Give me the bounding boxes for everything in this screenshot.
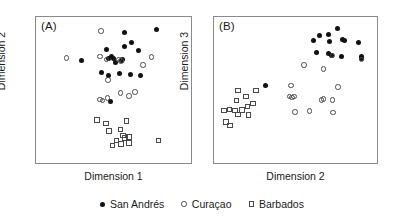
- data-point: [105, 77, 111, 83]
- data-point: [124, 118, 130, 124]
- data-point: [335, 84, 341, 90]
- data-point: [317, 33, 322, 38]
- data-point: [118, 141, 124, 147]
- data-point: [243, 94, 249, 100]
- data-point: [321, 96, 327, 102]
- data-point: [339, 54, 344, 59]
- legend: San Andrés Curaçao Barbados: [0, 198, 404, 210]
- data-point: [359, 57, 365, 63]
- data-point: [245, 104, 251, 110]
- panel-a-xlabel: Dimension 1: [35, 170, 192, 182]
- data-point: [330, 97, 336, 103]
- data-point: [326, 32, 331, 37]
- data-point: [126, 93, 132, 99]
- data-point: [79, 58, 84, 63]
- plot-frame-a: [35, 16, 192, 164]
- data-point: [110, 143, 116, 149]
- data-point: [140, 62, 146, 68]
- data-point: [291, 94, 297, 100]
- data-point: [99, 70, 104, 75]
- legend-entry-san-andres: San Andrés: [100, 198, 164, 210]
- data-point: [227, 107, 233, 113]
- data-point: [132, 89, 138, 95]
- data-point: [301, 62, 307, 68]
- data-point: [321, 66, 327, 72]
- data-point: [129, 40, 134, 45]
- panel-b-ylabel: Dimension 3: [178, 21, 190, 143]
- data-point: [314, 50, 319, 55]
- panel-b-xlabel: Dimension 2: [213, 170, 378, 182]
- plot-frame-b: [213, 16, 378, 164]
- data-point: [330, 110, 336, 116]
- data-point: [118, 90, 124, 96]
- data-point: [246, 112, 252, 118]
- data-point: [117, 71, 122, 76]
- plot-area-a: [36, 17, 191, 163]
- data-point: [234, 98, 240, 104]
- data-point: [235, 112, 241, 118]
- data-point: [156, 138, 162, 144]
- data-point: [311, 38, 316, 43]
- legend-label-curacao: Curaçao: [192, 198, 232, 210]
- data-point: [253, 88, 259, 94]
- data-point: [104, 57, 110, 63]
- data-point: [327, 39, 332, 44]
- data-point: [94, 117, 100, 123]
- data-point: [105, 95, 111, 101]
- figure: (A) Dimension 1 Dimension 2 (B) Dimensio…: [0, 0, 404, 220]
- data-point: [128, 72, 133, 77]
- data-point: [235, 88, 241, 94]
- panel-a-ylabel: Dimension 2: [0, 21, 7, 143]
- data-point: [149, 54, 155, 60]
- filled-circle-icon: [100, 202, 105, 207]
- data-point: [288, 83, 294, 89]
- panel-b-letter: (B): [219, 20, 235, 32]
- data-point: [122, 30, 127, 35]
- data-point: [126, 140, 132, 146]
- data-point: [103, 121, 109, 127]
- data-point: [136, 48, 141, 53]
- data-point: [292, 109, 298, 115]
- data-point: [330, 53, 336, 59]
- data-point: [263, 83, 268, 88]
- data-point: [106, 128, 112, 134]
- data-point: [118, 127, 124, 133]
- legend-label-san-andres: San Andrés: [110, 198, 164, 210]
- legend-entry-barbados: Barbados: [249, 198, 304, 210]
- data-point: [227, 123, 233, 129]
- data-point: [118, 58, 124, 64]
- plot-area-b: [214, 17, 377, 163]
- data-point: [97, 54, 103, 60]
- data-point: [221, 108, 227, 114]
- data-point: [307, 108, 313, 114]
- data-point: [342, 38, 347, 43]
- open-square-icon: [249, 201, 255, 207]
- legend-label-barbados: Barbados: [259, 198, 304, 210]
- data-point: [250, 101, 256, 107]
- data-point: [104, 47, 109, 52]
- open-circle-icon: [181, 201, 187, 207]
- data-point: [98, 28, 104, 34]
- data-point: [126, 134, 132, 140]
- data-point: [122, 44, 127, 49]
- data-point: [335, 26, 340, 31]
- panel-a-letter: (A): [41, 20, 57, 32]
- data-point: [100, 98, 106, 104]
- data-point: [138, 73, 143, 78]
- data-point: [154, 27, 159, 32]
- data-point: [64, 55, 70, 61]
- data-point: [356, 40, 361, 45]
- legend-entry-curacao: Curaçao: [181, 198, 231, 210]
